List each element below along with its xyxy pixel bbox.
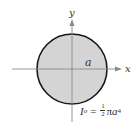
- fraction-numerator: 1: [101, 103, 105, 110]
- moment-of-inertia-formula: I o = 1 2 π a 4: [80, 103, 121, 118]
- formula-fraction: 1 2: [100, 103, 105, 118]
- formula-equals: =: [90, 105, 96, 117]
- y-axis-label: y: [68, 7, 75, 18]
- x-axis-arrow-icon: [115, 67, 122, 72]
- x-axis-label: x: [125, 63, 131, 74]
- formula-subscript: o: [84, 107, 88, 115]
- fraction-denominator: 2: [101, 111, 105, 118]
- formula-exponent: 4: [117, 107, 121, 115]
- radius-label: a: [85, 56, 92, 69]
- y-axis-arrow-icon: [70, 19, 75, 26]
